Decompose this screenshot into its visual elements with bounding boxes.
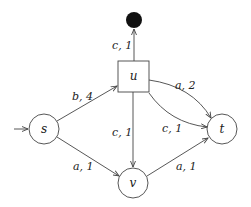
edge-label-u-v: c, 1 — [112, 126, 132, 139]
graph-diagram: u s t v c, 1 b, 4 a, 2 c, 1 c, 1 a, 1 a,… — [0, 0, 251, 207]
sink-node — [126, 12, 142, 28]
edge-label-u-t-lower: c, 1 — [162, 122, 182, 135]
node-v-label: v — [130, 176, 137, 190]
edge-label-s-v: a, 1 — [73, 160, 94, 173]
edge-label-s-u: b, 4 — [72, 90, 93, 103]
edge-label-v-t: a, 1 — [176, 160, 197, 173]
edge-label-u-sink: c, 1 — [112, 39, 132, 52]
node-u-label: u — [130, 69, 138, 83]
node-t-label: t — [220, 122, 225, 136]
edge-label-u-t-upper: a, 2 — [175, 79, 196, 92]
node-s-label: s — [41, 122, 47, 136]
